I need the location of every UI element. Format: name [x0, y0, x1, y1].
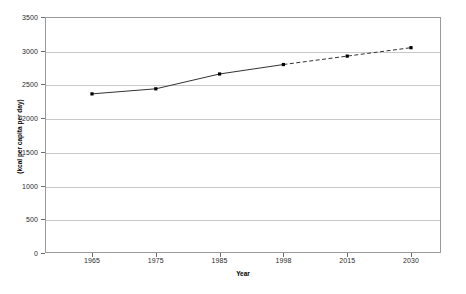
- data-point-marker: [218, 72, 221, 75]
- data-point-marker: [154, 87, 157, 90]
- chart-container: 0500100015002000250030003500 (kcal per c…: [0, 0, 466, 294]
- data-point-marker: [346, 55, 349, 58]
- data-point-marker: [409, 46, 412, 49]
- series-line-group: [0, 0, 466, 294]
- data-point-marker: [282, 63, 285, 66]
- series-segment-observed: [92, 65, 283, 94]
- data-point-marker: [90, 92, 93, 95]
